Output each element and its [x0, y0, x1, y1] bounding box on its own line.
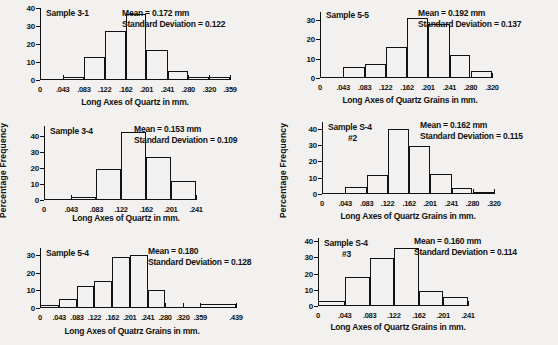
y-axis-tick-label: 30	[309, 140, 318, 149]
histogram-bar	[63, 77, 84, 80]
histogram-bar	[148, 290, 165, 308]
sample-title: Sample S-4	[324, 238, 368, 248]
histogram-sample-s-4-3: 0102030400.043.083.122.162.201.241Sample…	[278, 230, 558, 345]
x-axis-tick	[236, 303, 237, 308]
y-axis-label: Percentage Frequency	[278, 123, 288, 218]
y-axis-label: Percentage Frequency	[0, 123, 8, 218]
histogram-bar	[318, 301, 345, 306]
x-axis-label: Long Axes of Quartz Grains in mm.	[300, 322, 496, 332]
histogram-bar	[96, 169, 121, 200]
statistics-annotation: Mean = 0.160 mmStandard Deviation = 0.11…	[414, 236, 517, 258]
x-axis-tick-label: .320	[176, 313, 189, 322]
histogram-bar	[130, 255, 148, 308]
x-axis-tick-label: .241	[461, 311, 474, 320]
x-axis-tick-label: .162	[400, 83, 413, 92]
histogram-bar	[84, 57, 105, 80]
histogram-bar	[77, 286, 94, 308]
histogram-bar	[71, 197, 96, 200]
x-axis-label: Long Axes of Quartz Grains in mm.	[310, 211, 506, 221]
histogram-bar	[428, 24, 450, 78]
x-axis-tick-label: .241	[443, 83, 456, 92]
histogram-bar	[409, 146, 430, 194]
x-axis-tick-label-row: 0.043.083.122.162.201.241.280.320	[320, 80, 492, 92]
y-axis-tick	[318, 145, 322, 146]
chart-panel-sample-s-4-3: 0102030400.043.083.122.162.201.241Sample…	[278, 230, 558, 345]
chart-panel-sample-5-4: 01020300.043.083.122.162.201.241.280.320…	[0, 230, 278, 345]
histogram-bar	[209, 77, 230, 80]
histogram-bar	[343, 67, 365, 78]
x-axis-tick-label-row: 0.043.083.122.162.201.241.280.320	[322, 196, 494, 208]
y-axis-tick-label: 10	[309, 173, 318, 182]
histogram-bar	[419, 291, 443, 306]
y-axis-line	[40, 248, 41, 308]
sample-title: Sample 5-5	[326, 10, 369, 20]
sample-title: Sample 5-4	[46, 248, 89, 258]
x-axis-tick-label: .241	[445, 199, 458, 208]
histogram-sample-3-1: 0102030400.043.083.122.162.201.241.280.3…	[0, 0, 278, 112]
x-axis-tick-label: .201	[423, 199, 436, 208]
x-axis-tick-label: .122	[381, 199, 394, 208]
x-axis-tick-label: .122	[88, 313, 101, 322]
histogram-bar	[365, 64, 386, 78]
x-axis-tick-label: .320	[485, 83, 498, 92]
histogram-bar	[345, 277, 370, 306]
y-axis-tick-label: 0	[35, 196, 39, 205]
x-axis-tick-label: .162	[119, 85, 132, 94]
statistics-annotation: Mean = 0.180Standard Deviation = 0.128	[148, 246, 251, 268]
mean-label: Mean = 0.162 mm	[420, 120, 523, 131]
y-axis-line	[322, 122, 323, 194]
mean-label: Mean = 0.160 mm	[414, 236, 517, 247]
x-axis-tick-label: .162	[402, 199, 415, 208]
y-axis-tick-label: 20	[307, 35, 316, 44]
standard-deviation-label: Standard Deviation = 0.109	[134, 135, 237, 146]
histogram-sample-5-5: 01020300.043.083.122.162.201.241.280.320…	[278, 0, 558, 112]
y-axis-tick-label: 20	[305, 269, 314, 278]
standard-deviation-label: Standard Deviation = 0.115	[420, 131, 523, 142]
x-axis-tick-label: .359	[194, 313, 207, 322]
x-axis-tick-label: .280	[466, 199, 479, 208]
x-axis-tick-label: .439	[229, 313, 242, 322]
y-axis-tick-label: 10	[305, 285, 314, 294]
y-axis-tick	[36, 8, 40, 9]
x-axis-tick-label: .083	[363, 311, 376, 320]
y-axis-tick	[314, 306, 318, 307]
y-axis-tick-label: 30	[31, 147, 40, 156]
x-axis-tick	[494, 189, 495, 194]
x-axis-tick-label: .043	[338, 199, 351, 208]
y-axis-tick-label: 10	[27, 286, 36, 295]
figure-page: 0102030400.043.083.122.162.201.241.280.3…	[0, 0, 558, 345]
histogram-bar	[473, 192, 495, 194]
histogram-bar	[168, 71, 189, 80]
y-axis-tick-label: 40	[309, 124, 318, 133]
y-axis-tick	[316, 59, 320, 60]
y-axis-tick-label: 30	[27, 251, 36, 260]
sample-subtitle: #3	[342, 249, 351, 259]
x-axis-tick-label: .280	[464, 83, 477, 92]
y-axis-tick-label: 0	[31, 304, 35, 313]
x-axis-tick-label: .280	[158, 313, 171, 322]
x-axis-tick-label: .162	[412, 311, 425, 320]
y-axis-tick	[36, 255, 40, 256]
standard-deviation-label: Standard Deviation = 0.137	[418, 19, 521, 30]
y-axis-tick-label: 0	[309, 302, 313, 311]
x-axis-tick-label: .122	[379, 83, 392, 92]
x-axis-tick	[468, 301, 469, 306]
y-axis-tick	[318, 161, 322, 162]
x-axis-tick-label: .241	[141, 313, 154, 322]
y-axis-tick	[316, 39, 320, 40]
sample-title: Sample S-4	[328, 122, 372, 132]
y-axis-tick-label: 10	[27, 58, 36, 67]
x-axis-tick-label: .083	[360, 199, 373, 208]
y-axis-tick-label: 20	[27, 40, 36, 49]
x-axis-tick-label: .043	[56, 85, 69, 94]
x-axis-tick-label: 0	[38, 313, 42, 322]
y-axis-tick	[314, 257, 318, 258]
y-axis-tick	[36, 62, 40, 63]
y-axis-tick-label: 20	[309, 157, 318, 166]
y-axis-tick-label: 20	[27, 268, 36, 277]
x-axis-tick-label: .201	[436, 311, 449, 320]
x-axis-tick-label-row: 0.043.083.122.162.201.241.280.320.359	[40, 82, 230, 94]
y-axis-tick	[316, 20, 320, 21]
x-axis-tick	[230, 75, 231, 80]
y-axis-tick	[314, 290, 318, 291]
